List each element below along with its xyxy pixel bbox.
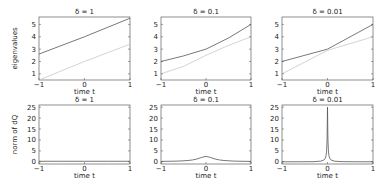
x-tick-label: −1 — [156, 81, 166, 89]
y-tick-label: 20 — [149, 115, 158, 123]
y-tick-label: 20 — [27, 115, 36, 123]
x-tick-label: −1 — [34, 81, 44, 89]
subplot-2: 12345−101δ = 0.1time t — [154, 8, 254, 96]
y-tick-label: 4 — [32, 33, 37, 41]
subplot-3: 12345−101δ = 0.01time t — [275, 8, 376, 96]
y-tick-label: 5 — [275, 21, 279, 29]
y-tick-label: 10 — [270, 136, 279, 144]
y-tick-label: 3 — [154, 46, 158, 54]
x-axis-label: time t — [74, 88, 95, 96]
subplot-title: δ = 1 — [75, 8, 94, 16]
x-tick-label: 1 — [249, 165, 253, 173]
y-tick-label: 5 — [275, 147, 279, 155]
y-tick-label: 5 — [154, 147, 158, 155]
subplot-1: 12345−101δ = 1time teigenvalues — [11, 8, 132, 96]
x-tick-label: 1 — [371, 81, 375, 89]
y-tick-label: 15 — [149, 126, 158, 134]
subplot-4: 0510152025−101δ = 1time tnorm of dQ — [11, 96, 132, 180]
y-tick-label: 20 — [270, 115, 279, 123]
x-axis-label: time t — [317, 172, 338, 180]
x-tick-label: 1 — [371, 165, 375, 173]
y-tick-label: 1 — [275, 70, 279, 78]
y-tick-label: 4 — [154, 33, 159, 41]
y-tick-label: 5 — [32, 147, 36, 155]
y-tick-label: 25 — [27, 104, 36, 112]
subplot-title: δ = 0.01 — [312, 8, 342, 16]
y-axis-label: eigenvalues — [11, 27, 19, 70]
y-tick-label: 2 — [32, 58, 36, 66]
axes-box — [161, 17, 251, 80]
y-tick-label: 3 — [275, 46, 279, 54]
subplot-5: 0510152025−101δ = 0.1time t — [149, 96, 253, 180]
y-tick-label: 3 — [32, 46, 36, 54]
axes-box — [282, 17, 373, 80]
y-tick-label: 5 — [154, 21, 158, 29]
x-tick-label: 1 — [128, 165, 132, 173]
x-tick-label: −1 — [277, 81, 287, 89]
x-axis-label: time t — [196, 88, 217, 96]
x-tick-label: 1 — [249, 81, 253, 89]
y-tick-label: 2 — [154, 58, 158, 66]
axes-box — [161, 105, 251, 164]
y-tick-label: 25 — [270, 104, 279, 112]
x-tick-label: −1 — [156, 165, 166, 173]
y-tick-label: 1 — [32, 70, 36, 78]
x-axis-label: time t — [317, 88, 338, 96]
y-tick-label: 10 — [27, 136, 36, 144]
y-tick-label: 1 — [154, 70, 158, 78]
x-axis-label: time t — [74, 172, 95, 180]
subplot-title: δ = 0.1 — [193, 8, 219, 16]
axes-box — [39, 105, 130, 164]
x-tick-label: 1 — [128, 81, 132, 89]
y-tick-label: 10 — [149, 136, 158, 144]
subplot-title: δ = 0.01 — [312, 96, 342, 104]
y-tick-label: 25 — [149, 104, 158, 112]
figure: 12345−101δ = 1time teigenvalues12345−101… — [0, 0, 388, 186]
y-tick-label: 4 — [275, 33, 280, 41]
subplot-title: δ = 1 — [75, 96, 94, 104]
y-tick-label: 2 — [275, 58, 279, 66]
x-axis-label: time t — [196, 172, 217, 180]
y-axis-label: norm of dQ — [11, 114, 19, 154]
subplot-6: 0510152025−101δ = 0.01time t — [270, 96, 375, 180]
y-tick-label: 15 — [270, 126, 279, 134]
y-tick-label: 5 — [32, 21, 36, 29]
x-tick-label: −1 — [34, 165, 44, 173]
x-tick-label: −1 — [277, 165, 287, 173]
y-tick-label: 15 — [27, 126, 36, 134]
chart-canvas: 12345−101δ = 1time teigenvalues12345−101… — [0, 0, 388, 186]
subplot-title: δ = 0.1 — [193, 96, 219, 104]
